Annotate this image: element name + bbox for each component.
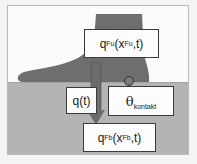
heat-flux-floor-label: qFb(xFb,t) [83,123,156,152]
label-base: q [98,131,105,145]
theta-sub: kontakt [134,103,157,110]
diagram-stage: qFu(xFu,t) q(t) θkontakt qFb(xFb,t) [0,0,197,164]
heat-flux-time-label: q(t) [66,87,97,114]
label-arg-sub: Fb [123,134,131,141]
contact-temperature-label: θkontakt [108,86,174,116]
label-close: ,t) [131,131,142,145]
label-arg-sub: Fu [125,40,133,47]
label-base: q [100,37,107,51]
label-sub: Fu [106,40,114,47]
diagram-frame: qFu(xFu,t) q(t) θkontakt qFb(xFb,t) [7,5,189,155]
label-close: ,t) [133,37,144,51]
label-open: (x [115,37,125,51]
theta-symbol: θ [126,94,134,109]
label-open: (x [113,131,123,145]
heat-flux-foot-label: qFu(xFu,t) [84,29,159,58]
label-sub: Fb [104,134,112,141]
